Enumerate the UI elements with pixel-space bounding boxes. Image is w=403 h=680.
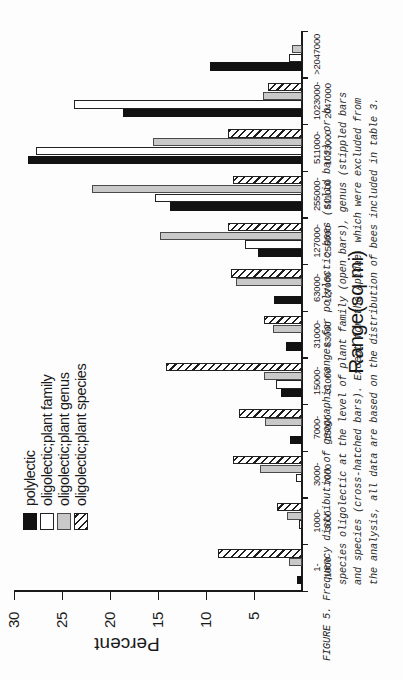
bar [286, 342, 302, 350]
x-axis-tick [301, 544, 308, 545]
bar [92, 185, 302, 193]
bar-group [14, 83, 302, 118]
bar [287, 512, 302, 520]
x-axis-tick [301, 124, 308, 125]
bar [228, 129, 302, 137]
figure-caption-text: FIGURE 5. Frequency distribution of geog… [320, 1, 382, 661]
bar [299, 520, 302, 528]
x-axis-tick [301, 404, 308, 405]
legend-item: oligolectic;plant genus [56, 364, 72, 530]
bar-group [14, 549, 302, 584]
bar [239, 409, 302, 417]
x-axis-tick [301, 77, 308, 78]
bar [281, 389, 302, 397]
figure-label: FIGURE 5. [322, 601, 333, 661]
caption-line: FIGURE 5. Frequency distribution of geog… [320, 1, 336, 661]
bar [264, 316, 302, 324]
bar [260, 465, 302, 473]
bar-group [14, 223, 302, 258]
legend: polylecticoligolectic;plant familyoligol… [22, 364, 90, 530]
x-axis-tick [301, 31, 308, 32]
bar [273, 325, 302, 333]
legend-item: polylectic [22, 364, 38, 530]
x-axis-tick [301, 591, 308, 592]
bar [277, 503, 302, 511]
legend-item: oligolectic;plant species [73, 364, 89, 530]
x-axis-tick [301, 264, 308, 265]
bar [160, 232, 302, 240]
bar [231, 269, 302, 277]
y-axis-tick [110, 592, 111, 600]
bar [236, 278, 302, 286]
legend-swatch [74, 513, 88, 530]
legend-item-label: oligolectic;plant family [39, 375, 55, 506]
bar [265, 418, 302, 426]
caption-line: species oligolectic at the level of plan… [336, 1, 352, 661]
bar [290, 436, 302, 444]
legend-swatch [23, 513, 37, 530]
legend-item-label: polylectic [22, 450, 38, 506]
legend-swatch [40, 513, 54, 530]
bar [263, 92, 302, 100]
bar [276, 380, 302, 388]
bar [264, 372, 302, 380]
x-axis-tick [301, 497, 308, 498]
bar [289, 54, 302, 62]
y-axis-label: Percent [67, 633, 187, 655]
bar [296, 474, 302, 482]
bar [228, 223, 302, 231]
bar [170, 202, 302, 210]
bar [289, 558, 302, 566]
bar [123, 109, 302, 117]
x-axis-tick [301, 451, 308, 452]
bar [268, 83, 302, 91]
y-axis-tick-label: 5 [245, 612, 262, 646]
bar [166, 363, 302, 371]
bar [258, 249, 302, 257]
x-axis-tick [301, 217, 308, 218]
y-axis-tick [158, 592, 159, 600]
x-axis-tick [301, 311, 308, 312]
bar [245, 240, 302, 248]
bar-group [14, 176, 302, 211]
bar [274, 296, 302, 304]
y-axis-tick [62, 592, 63, 600]
bar [28, 156, 302, 164]
bar [218, 549, 302, 557]
legend-item: oligolectic;plant family [39, 364, 55, 530]
bar [36, 147, 302, 155]
legend-item-label: oligolectic;plant genus [56, 373, 72, 506]
figure-page: 51015202530 Percent 1-10001000-30003000-… [0, 0, 403, 680]
x-axis-tick [301, 357, 308, 358]
bar [153, 138, 302, 146]
bar [297, 576, 302, 584]
bar-group [14, 36, 302, 71]
legend-swatch [57, 513, 71, 530]
x-axis-tick [301, 171, 308, 172]
caption-line: and species (cross-hatched bars). Except… [351, 1, 367, 661]
caption-line: the analysis, all data are based on the … [367, 1, 383, 661]
y-axis-tick [254, 592, 255, 600]
bar [74, 100, 302, 108]
y-axis-tick-label: 30 [5, 612, 22, 646]
bar [155, 194, 302, 202]
bar-group [14, 129, 302, 164]
figure-caption: FIGURE 5. Frequency distribution of geog… [321, 0, 401, 680]
bar-group [14, 316, 302, 351]
y-axis-tick [206, 592, 207, 600]
bar [233, 176, 302, 184]
bar [210, 62, 302, 70]
bar-group [14, 269, 302, 304]
legend-item-label: oligolectic;plant species [73, 364, 89, 506]
bar [292, 45, 302, 53]
y-axis-tick [14, 592, 15, 600]
y-axis-tick-label: 10 [197, 612, 214, 646]
bar [233, 456, 302, 464]
